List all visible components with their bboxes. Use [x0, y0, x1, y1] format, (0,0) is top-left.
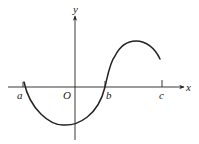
- origin-label: O: [63, 89, 71, 101]
- x-axis-label: x: [185, 81, 191, 93]
- function-graph: x y O a b c: [0, 0, 199, 144]
- point-c-label: c: [159, 89, 164, 101]
- y-axis-label: y: [72, 3, 78, 15]
- point-a-label: a: [17, 89, 23, 101]
- function-curve: [24, 41, 160, 125]
- point-b-label: b: [106, 89, 112, 101]
